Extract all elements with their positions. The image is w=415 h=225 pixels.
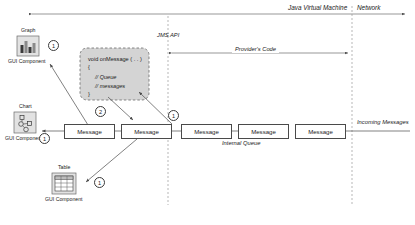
step-marker-chart: 1 xyxy=(39,133,50,144)
bar-chart-icon xyxy=(17,36,39,56)
grid-table-icon xyxy=(52,173,76,194)
chart-title: Chart xyxy=(19,104,32,109)
queue-message-label-1: Message xyxy=(194,128,219,135)
client-message-box-2[interactable]: Message xyxy=(121,124,172,139)
internal-queue-caption: Internal Queue xyxy=(222,141,260,147)
table-sublabel: GUI Component xyxy=(45,197,82,202)
graph-sublabel: GUI Component xyxy=(8,59,45,64)
diagram-vector-layer xyxy=(0,0,415,225)
code-line-5: } xyxy=(88,92,90,98)
client-message-box-1[interactable]: Message xyxy=(64,124,115,139)
jms-api-label: JMS API xyxy=(157,33,179,39)
network-label: Network xyxy=(357,5,380,11)
diagram-canvas: Java Virtual Machine Network JMS API Pro… xyxy=(0,0,415,225)
jvm-label: Java Virtual Machine xyxy=(288,5,347,11)
code-to-message-arrow xyxy=(108,97,133,120)
step-marker-chart-value: 1 xyxy=(43,136,46,142)
step-marker-table-value: 1 xyxy=(98,180,101,186)
step-marker-graph-value: 1 xyxy=(52,43,55,49)
code-line-3: // Queue xyxy=(95,75,116,81)
client-message-label-1: Message xyxy=(77,128,102,135)
queue-message-box-3[interactable]: Message xyxy=(295,124,346,139)
graph-title: Graph xyxy=(21,28,35,33)
step-marker-deliver: 2 xyxy=(95,106,106,117)
queue-to-code-arrow xyxy=(139,92,172,124)
code-line-2: { xyxy=(88,65,90,71)
queue-message-box-2[interactable]: Message xyxy=(238,124,289,139)
step-marker-queue-value: 1 xyxy=(172,113,175,119)
node-graph-icon xyxy=(14,112,36,133)
code-line-1: void onMessage ( . . ) xyxy=(88,57,142,63)
step-marker-deliver-value: 2 xyxy=(99,109,102,115)
queue-message-box-1[interactable]: Message xyxy=(181,124,232,139)
queue-message-label-3: Message xyxy=(308,128,333,135)
client-message-label-2: Message xyxy=(134,128,159,135)
providers-code-label: Provider's Code xyxy=(232,47,279,53)
chart-sublabel: GUI Component xyxy=(5,136,42,141)
incoming-messages-label: Incoming Messages xyxy=(357,120,409,126)
step-marker-graph: 1 xyxy=(48,40,59,51)
to-table-arrow xyxy=(86,139,137,182)
step-marker-table: 1 xyxy=(94,177,105,188)
step-marker-queue: 1 xyxy=(168,110,179,121)
code-line-4: // messages xyxy=(95,84,125,90)
queue-message-label-2: Message xyxy=(251,128,276,135)
table-title: Table xyxy=(58,165,70,170)
